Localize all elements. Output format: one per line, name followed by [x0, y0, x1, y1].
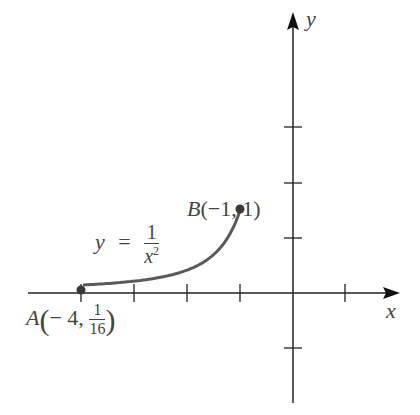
point-a-dot — [77, 286, 86, 295]
point-a-label: A(− 4, 1 16 ) — [26, 302, 115, 337]
curve-equation-label: y = 1 x2 — [95, 222, 159, 266]
equation-equals: = — [118, 229, 130, 254]
y-axis-label: y — [306, 6, 316, 32]
point-a-y-fraction: 1 16 — [89, 302, 105, 337]
equation-numerator: 1 — [144, 222, 159, 244]
x-axis-label: x — [386, 298, 396, 324]
equation-fraction: 1 x2 — [144, 222, 159, 266]
equation-denominator: x2 — [144, 244, 159, 266]
point-b-label: B(−1, 1) — [187, 196, 261, 222]
graph-canvas: y x y = 1 x2 B(−1, 1) A(− 4, 1 16 ) — [0, 0, 420, 415]
equation-lhs: y — [95, 229, 105, 254]
